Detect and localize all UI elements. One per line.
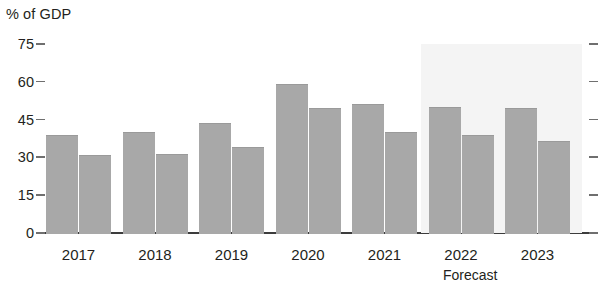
y-axis-tick-label: 30 bbox=[0, 150, 34, 165]
x-axis-tick-label: 2017 bbox=[36, 247, 121, 262]
y-axis-tick-mark-right bbox=[589, 119, 598, 121]
bar bbox=[46, 135, 78, 234]
y-axis-tick-mark bbox=[36, 81, 45, 83]
y-axis-tick-mark bbox=[36, 43, 45, 45]
bar-chart: % of GDP 0153045607520172018201920202021… bbox=[0, 0, 607, 285]
y-axis-tick-mark-right bbox=[589, 81, 598, 83]
bar bbox=[199, 123, 231, 234]
x-axis-tick-label: 2021 bbox=[342, 247, 427, 262]
y-axis-tick-mark bbox=[36, 156, 45, 158]
y-axis-tick-label: 60 bbox=[0, 75, 34, 90]
y-axis-tick-label: 0 bbox=[0, 226, 34, 241]
bar bbox=[462, 135, 494, 234]
bar bbox=[429, 107, 461, 234]
x-axis-tick-label: 2022 bbox=[419, 247, 504, 262]
y-axis-tick-label: 15 bbox=[0, 188, 34, 203]
x-axis-tick-label: 2019 bbox=[189, 247, 274, 262]
y-axis-tick-mark bbox=[36, 119, 45, 121]
y-axis-tick-mark-right bbox=[589, 43, 598, 45]
y-axis-tick-mark-right bbox=[589, 232, 598, 234]
bar bbox=[352, 104, 384, 234]
y-axis-tick-mark bbox=[36, 232, 45, 234]
bar bbox=[309, 108, 341, 234]
x-axis-tick-label: 2020 bbox=[266, 247, 351, 262]
y-axis-tick-mark-right bbox=[589, 194, 598, 196]
y-axis-tick-mark bbox=[36, 194, 45, 196]
bar bbox=[505, 108, 537, 234]
y-axis-title: % of GDP bbox=[6, 6, 71, 22]
bar bbox=[232, 147, 264, 234]
y-axis-tick-label: 75 bbox=[0, 37, 34, 52]
forecast-label: Forecast bbox=[443, 268, 497, 282]
x-axis-tick-label: 2018 bbox=[113, 247, 198, 262]
bar bbox=[276, 84, 308, 234]
x-axis-tick-label: 2023 bbox=[495, 247, 580, 262]
y-axis-tick-label: 45 bbox=[0, 113, 34, 128]
bar bbox=[385, 132, 417, 234]
bar bbox=[156, 154, 188, 234]
y-axis-tick-mark-right bbox=[589, 156, 598, 158]
bar bbox=[538, 141, 570, 234]
bar bbox=[79, 155, 111, 234]
bar bbox=[123, 132, 155, 234]
